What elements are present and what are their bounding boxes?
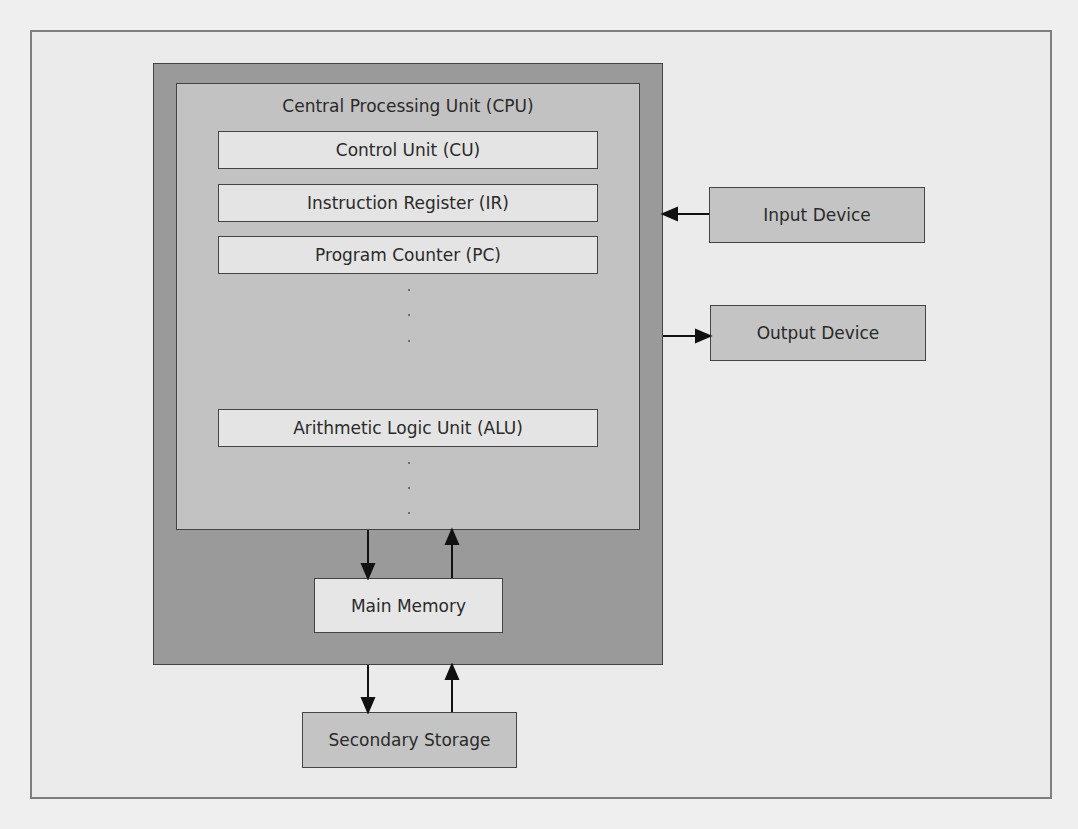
arrow-down-icon [362,698,374,712]
arrow-up-icon [446,665,458,679]
connection-arrows [0,0,1078,829]
arrow-right-icon [696,330,710,342]
arrow-down-icon [362,564,374,578]
arrow-up-icon [446,530,458,544]
arrow-left-icon [663,208,677,220]
